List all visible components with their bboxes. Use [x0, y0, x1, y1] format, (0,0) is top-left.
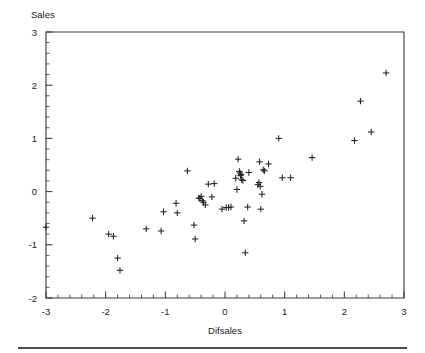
- data-point: [383, 70, 389, 76]
- x-tick-label: 1: [282, 306, 287, 317]
- data-point: [242, 250, 248, 256]
- y-tick-label: -1: [29, 239, 37, 250]
- y-axis-title: Sales: [31, 9, 55, 20]
- data-point: [219, 206, 225, 212]
- plot-frame: [46, 32, 404, 298]
- data-point: [279, 175, 285, 181]
- data-point: [114, 255, 120, 261]
- data-point: [241, 218, 247, 224]
- x-tick-label: 2: [342, 306, 347, 317]
- data-point: [117, 267, 123, 273]
- data-point: [158, 228, 164, 234]
- data-point: [256, 159, 262, 165]
- data-point: [258, 206, 264, 212]
- x-tick-label: -2: [101, 306, 109, 317]
- data-point: [205, 181, 211, 187]
- data-point: [235, 156, 241, 162]
- data-point: [351, 137, 357, 143]
- data-point: [160, 209, 166, 215]
- y-tick-label: -2: [29, 293, 37, 304]
- data-point: [259, 191, 265, 197]
- data-point: [191, 222, 197, 228]
- x-tick-label: -1: [161, 306, 169, 317]
- x-axis-title: Difsales: [208, 325, 242, 336]
- data-point: [143, 226, 149, 232]
- data-point: [211, 180, 217, 186]
- data-point: [261, 168, 267, 174]
- plot-border: [46, 32, 404, 298]
- scatter-plot-figure: -3-2-10123 -2-10123 Sales Difsales: [0, 0, 425, 353]
- y-axis-tick-labels: -2-10123: [29, 27, 37, 304]
- data-point: [357, 98, 363, 104]
- x-tick-label: 0: [222, 306, 227, 317]
- data-point: [287, 175, 293, 181]
- data-point: [368, 129, 374, 135]
- data-point: [184, 168, 190, 174]
- y-tick-label: 3: [32, 27, 37, 38]
- y-tick-label: 1: [32, 133, 37, 144]
- data-point: [246, 169, 252, 175]
- scatter-plot-canvas: -3-2-10123 -2-10123 Sales Difsales: [0, 0, 425, 353]
- data-point: [260, 167, 266, 173]
- data-point: [239, 177, 245, 183]
- data-point: [192, 236, 198, 242]
- x-axis-tick-labels: -3-2-10123: [42, 306, 407, 317]
- y-tick-label: 0: [32, 186, 37, 197]
- y-tick-label: 2: [32, 80, 37, 91]
- data-point: [244, 204, 250, 210]
- data-point: [276, 135, 282, 141]
- x-tick-label: -3: [42, 306, 50, 317]
- data-point: [174, 210, 180, 216]
- data-point: [265, 161, 271, 167]
- x-tick-label: 3: [401, 306, 406, 317]
- data-point-markers: [43, 70, 390, 274]
- axis-ticks: [46, 32, 404, 298]
- data-point: [209, 194, 215, 200]
- data-point: [89, 215, 95, 221]
- data-point: [309, 154, 315, 160]
- data-point: [234, 186, 240, 192]
- data-point: [173, 200, 179, 206]
- data-point: [43, 224, 49, 230]
